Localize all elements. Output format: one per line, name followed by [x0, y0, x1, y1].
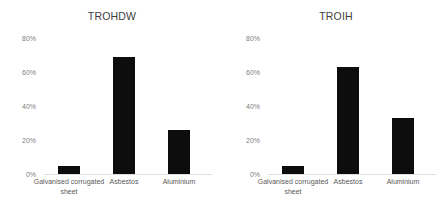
bar-galvanised-corrugated-sheet[interactable] — [282, 166, 304, 175]
y-tick-label: 20% — [22, 137, 36, 144]
y-tick-label: 40% — [22, 103, 36, 110]
x-axis-baseline — [44, 174, 212, 175]
x-axis-labels-troih: Galvanised corrugated sheet Asbestos Alu… — [268, 177, 436, 207]
bar-aluminium[interactable] — [392, 118, 414, 174]
x-axis-labels-trohdw: Galvanised corrugated sheet Asbestos Alu… — [44, 177, 212, 207]
plot-area-troih — [268, 38, 434, 174]
x-label-aluminium: Aluminium — [143, 177, 215, 187]
y-tick-label: 80% — [246, 35, 260, 42]
bar-asbestos[interactable] — [113, 57, 135, 174]
chart-panel-trohdw: TROHDW 80% 60% 40% 20% 0% Galvanised cor… — [0, 0, 224, 210]
bar-aluminium[interactable] — [168, 130, 190, 174]
bar-series-trohdw — [44, 38, 210, 174]
bar-asbestos[interactable] — [337, 67, 359, 174]
y-tick-label: 20% — [246, 137, 260, 144]
plot-area-trohdw — [44, 38, 210, 174]
y-tick-label: 80% — [22, 35, 36, 42]
y-axis-troih: 80% 60% 40% 20% 0% — [224, 38, 264, 174]
bar-chart-figure: TROHDW 80% 60% 40% 20% 0% Galvanised cor… — [0, 0, 448, 210]
bar-series-troih — [268, 38, 434, 174]
y-tick-label: 60% — [22, 69, 36, 76]
chart-title-trohdw: TROHDW — [0, 10, 224, 22]
x-axis-baseline — [268, 174, 436, 175]
y-tick-label: 60% — [246, 69, 260, 76]
bar-galvanised-corrugated-sheet[interactable] — [58, 166, 80, 175]
chart-panel-troih: TROIH 80% 60% 40% 20% 0% Galvanised corr… — [224, 0, 448, 210]
y-tick-label: 40% — [246, 103, 260, 110]
chart-title-troih: TROIH — [224, 10, 448, 22]
y-axis-trohdw: 80% 60% 40% 20% 0% — [0, 38, 40, 174]
x-label-aluminium: Aluminium — [367, 177, 439, 187]
